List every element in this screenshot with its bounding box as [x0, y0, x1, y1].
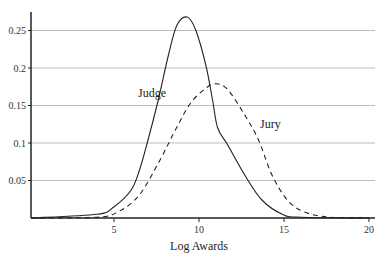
y-tick-label: 0.25	[9, 25, 27, 36]
y-tick-label: 0.1	[14, 138, 27, 149]
y-tick-label: 0.2	[14, 63, 27, 74]
series-label-judge: Judge	[138, 86, 166, 100]
y-tick-label: 0.15	[9, 100, 27, 111]
chart: 0.050.10.150.20.25 5101520 Judge Jury Lo…	[0, 0, 382, 259]
series-line-jury	[31, 84, 369, 218]
x-tick-label: 5	[112, 224, 117, 235]
plot-lines	[31, 17, 369, 218]
x-tick-label: 15	[279, 224, 289, 235]
x-axis-title: Log Awards	[170, 239, 228, 253]
series-label-jury: Jury	[260, 117, 281, 131]
x-tick-label: 10	[194, 224, 204, 235]
x-axis: 5101520	[31, 218, 375, 235]
x-tick-label: 20	[364, 224, 374, 235]
y-tick-label: 0.05	[9, 175, 27, 186]
series-line-judge	[31, 17, 369, 218]
y-axis: 0.050.10.150.20.25	[9, 12, 32, 218]
